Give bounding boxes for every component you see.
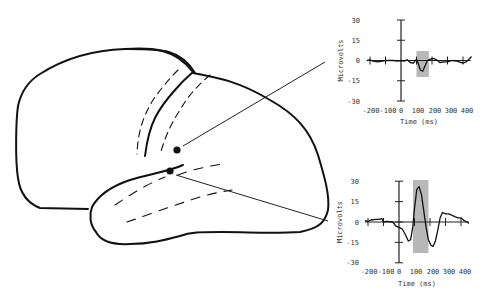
figure-canvas: 30150-15-30-200-1000100200300400Time (ms… (0, 0, 489, 301)
x-tick-label: 300 (445, 107, 458, 115)
x-tick-label: 0 (399, 107, 403, 115)
leader-line-lower (176, 175, 328, 221)
y-axis-title: Microvolts (336, 201, 344, 243)
temporal-sulcus-2 (115, 177, 165, 205)
y-tick-label: -15 (346, 239, 359, 247)
x-tick-label: 100 (412, 107, 425, 115)
temporal-sulcus-3 (127, 190, 232, 222)
x-tick-label: 0 (397, 268, 401, 276)
y-axis-title: Microvolts (337, 39, 345, 81)
electrode-upper (173, 146, 180, 153)
y-tick-label: -30 (347, 98, 360, 106)
x-axis-title: Time (ms) (400, 118, 438, 126)
x-tick-label: -100 (380, 107, 397, 115)
y-tick-label: 30 (351, 178, 359, 186)
y-tick-label: 0 (355, 219, 359, 227)
x-tick-label: -200 (361, 268, 378, 276)
x-axis-title: Time (ms) (398, 280, 436, 288)
chart-upper-electrode: 30150-15-30-200-1000100200300400Time (ms… (337, 17, 473, 127)
y-tick-label: -15 (347, 77, 360, 85)
y-tick-label: -30 (346, 259, 359, 267)
brain-outline (16, 49, 328, 244)
x-tick-label: 200 (427, 268, 440, 276)
x-tick-label: -200 (363, 107, 380, 115)
electrode-lower (166, 167, 173, 174)
x-tick-label: -100 (378, 268, 395, 276)
y-tick-label: 15 (351, 198, 359, 206)
y-tick-label: 30 (352, 17, 360, 25)
brain-diagram (16, 48, 328, 244)
x-tick-label: 200 (429, 107, 442, 115)
x-tick-label: 100 (410, 268, 423, 276)
central-sulcus (145, 72, 193, 156)
x-tick-label: 400 (461, 107, 474, 115)
x-tick-label: 400 (459, 268, 472, 276)
y-tick-label: 0 (356, 57, 360, 65)
x-tick-label: 300 (443, 268, 456, 276)
y-tick-label: 15 (352, 37, 360, 45)
temporal-sulcus-1 (178, 164, 222, 175)
chart-lower-electrode: 30150-15-30-200-1000100200300400Time (ms… (336, 178, 471, 288)
postcentral-sulcus (160, 75, 210, 155)
brain-outline-top (125, 48, 193, 72)
